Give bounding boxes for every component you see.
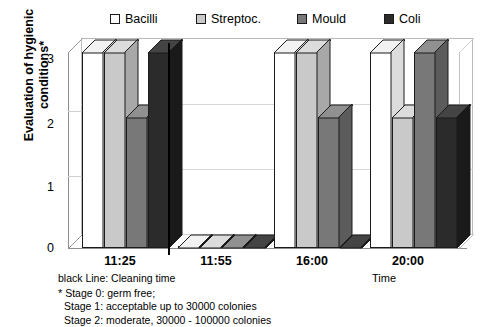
plot-corner-top-left	[68, 38, 83, 53]
bar-11-55-mould	[222, 247, 244, 248]
legend-swatch-streptoc	[196, 14, 206, 24]
x-tick-20-00: 20:00	[373, 254, 443, 268]
bar-16-00-streptoc	[296, 52, 318, 248]
chart-figure: Bacilli Streptoc. Mould Coli Evaluation …	[0, 0, 497, 327]
legend-item-streptoc: Streptoc.	[196, 13, 261, 25]
legend-label-streptoc: Streptoc.	[211, 13, 261, 25]
y-axis-title: Evaluation of hygienic conditions*	[22, 0, 52, 160]
footnote-stage-0-text: Stage 0: germ free;	[65, 287, 155, 299]
footnote-stage-1: Stage 1: acceptable up to 30000 colonies	[64, 300, 271, 313]
legend-label-mould: Mould	[312, 13, 346, 25]
bar-11-55-streptoc	[200, 247, 222, 248]
bar-20-00-streptoc	[392, 117, 414, 248]
x-tick-16-00: 16:00	[277, 254, 347, 268]
bar-11-25-mould	[126, 117, 148, 248]
bar-11-25-coli	[148, 52, 170, 248]
legend-item-mould: Mould	[297, 13, 346, 25]
bar-20-00-mould	[414, 52, 436, 248]
cleaning-time-line	[168, 43, 170, 255]
footnote-star: *	[58, 287, 62, 299]
footnote-stage-2: Stage 2: moderate, 30000 - 100000 coloni…	[64, 314, 271, 327]
bar-11-55-coli	[244, 247, 266, 248]
y-tick-3: 3	[40, 52, 54, 66]
bar-16-00-coli	[340, 247, 362, 248]
bar-16-00-mould	[318, 117, 340, 248]
legend-swatch-mould	[297, 14, 307, 24]
bar-16-00-bacilli	[274, 52, 296, 248]
bar-20-00-bacilli	[370, 52, 392, 248]
y-tick-2: 2	[40, 117, 54, 131]
x-tick-11-55: 11:55	[181, 254, 251, 268]
footnote-stage-0: * Stage 0: germ free;	[58, 287, 271, 300]
legend-item-coli: Coli	[384, 13, 421, 25]
x-tick-11-25: 11:25	[85, 254, 155, 268]
legend-label-bacilli: Bacilli	[125, 13, 158, 25]
plot-back-right-edge	[472, 38, 473, 235]
plot-floor-front-edge	[68, 248, 467, 249]
bar-11-55-bacilli	[178, 247, 200, 248]
x-axis-title: Time	[372, 272, 396, 284]
legend-swatch-bacilli	[110, 14, 120, 24]
y-tick-0: 0	[40, 241, 54, 255]
plot-area	[60, 38, 478, 260]
bar-20-00-coli	[436, 117, 458, 248]
chart-footnotes: black Line: Cleaning time * Stage 0: ger…	[58, 272, 271, 327]
gridline-2-slant	[68, 111, 83, 112]
bar-11-25-streptoc	[104, 52, 126, 248]
plot-corner-bottom-left	[68, 234, 83, 249]
y-tick-1: 1	[40, 180, 54, 194]
footnote-cleaning-time: black Line: Cleaning time	[58, 272, 271, 285]
gridline-1-slant	[68, 176, 83, 177]
chart-legend: Bacilli Streptoc. Mould Coli	[0, 10, 497, 32]
bar-11-25-bacilli	[82, 52, 104, 248]
legend-label-coli: Coli	[399, 13, 421, 25]
legend-swatch-coli	[384, 14, 394, 24]
plot-corner-top-right	[459, 38, 474, 53]
legend-item-bacilli: Bacilli	[110, 13, 158, 25]
plot-left-wall-edge	[68, 52, 69, 249]
plot-back-top-edge	[81, 38, 473, 39]
